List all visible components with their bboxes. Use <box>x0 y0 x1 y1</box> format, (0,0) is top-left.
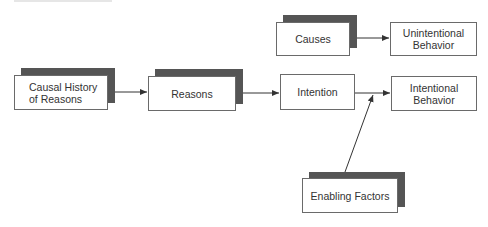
edge-enabling-to-intention-edge <box>345 95 373 172</box>
connector-arrows <box>0 0 488 227</box>
